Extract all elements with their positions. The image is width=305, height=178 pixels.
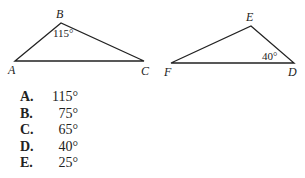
choice-letter: B.	[20, 106, 50, 123]
vertex-label-a: A	[7, 63, 16, 77]
vertex-label-f: F	[163, 65, 172, 79]
choice-d[interactable]: D. 40°	[20, 139, 78, 156]
choice-value: 115°	[50, 89, 78, 106]
choice-letter: E.	[20, 155, 50, 172]
angle-d-label: 40°	[262, 50, 277, 62]
angle-b-label: 115°	[53, 27, 74, 39]
vertex-label-c: C	[141, 64, 150, 78]
answer-choices: A. 115° B. 75° C. 65° D. 40° E. 25°	[20, 89, 78, 172]
choice-letter: A.	[20, 89, 50, 106]
triangle-abc	[15, 23, 144, 61]
choice-letter: D.	[20, 139, 50, 156]
choice-value: 75°	[50, 106, 78, 123]
vertex-label-b: B	[56, 7, 64, 21]
choice-value: 25°	[50, 155, 78, 172]
choice-value: 40°	[50, 139, 78, 156]
vertex-label-e: E	[245, 10, 254, 24]
choice-b[interactable]: B. 75°	[20, 106, 78, 123]
vertex-label-d: D	[287, 65, 297, 79]
choice-value: 65°	[50, 122, 78, 139]
choice-e[interactable]: E. 25°	[20, 155, 78, 172]
choice-letter: C.	[20, 122, 50, 139]
choice-c[interactable]: C. 65°	[20, 122, 78, 139]
choice-a[interactable]: A. 115°	[20, 89, 78, 106]
